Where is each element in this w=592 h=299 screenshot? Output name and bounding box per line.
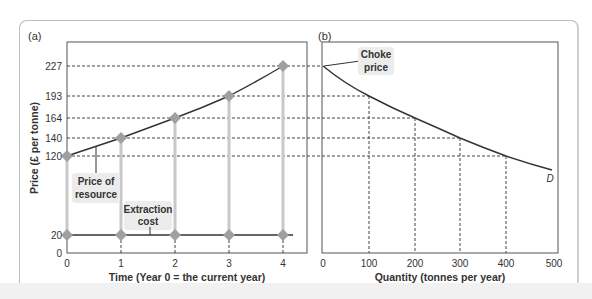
svg-text:20: 20 [51,230,63,241]
chart-svg: (a) (b) [0,0,592,299]
svg-text:0: 0 [56,248,62,259]
svg-text:3: 3 [226,258,232,269]
demand-curve-label: D [546,173,553,184]
y-axis-label: Price (£ per tonne) [28,102,40,194]
x-tick-labels-a: 0 1 2 3 4 [64,258,286,269]
svg-text:2: 2 [172,258,178,269]
svg-text:164: 164 [45,113,62,124]
svg-text:300: 300 [452,258,469,269]
svg-text:227: 227 [45,61,62,72]
cost-annotation-line2: cost [138,216,159,227]
svg-text:100: 100 [361,258,378,269]
choke-annotation-line1: Choke [361,49,392,60]
panel-b-plot-area [322,42,558,253]
y-tick-labels: 227 193 164 140 120 20 0 [45,61,62,259]
svg-text:140: 140 [45,133,62,144]
panel-b-label: (b) [318,30,331,42]
x-axis-label-a: Time (Year 0 = the current year) [109,271,266,283]
price-annotation-line1: Price of [78,176,115,187]
cost-annotation-line1: Extraction [124,204,173,215]
choke-annotation-leader [324,61,360,66]
svg-text:1: 1 [118,258,124,269]
svg-text:0: 0 [64,258,70,269]
x-axis-label-b: Quantity (tonnes per year) [375,271,506,283]
svg-text:193: 193 [45,91,62,102]
svg-text:400: 400 [498,258,515,269]
svg-text:0: 0 [320,258,326,269]
panel-a-label: (a) [28,30,41,42]
x-tick-labels-b: 0 100 200 300 400 500 [320,258,563,269]
price-annotation-line2: resource [75,189,118,200]
svg-text:120: 120 [45,151,62,162]
price-stems [67,66,283,235]
choke-annotation-line2: price [364,62,388,73]
svg-text:4: 4 [280,258,286,269]
svg-text:200: 200 [407,258,424,269]
svg-text:500: 500 [546,258,563,269]
